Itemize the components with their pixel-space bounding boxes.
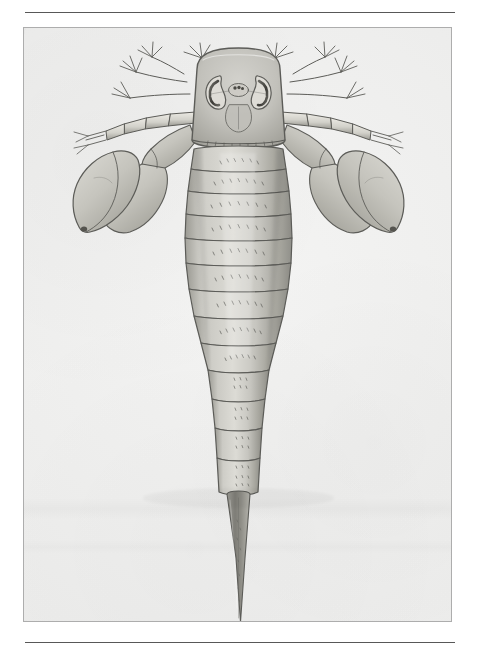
swimming-paddle-left [73, 125, 196, 233]
telson-spike [227, 491, 250, 622]
eurypterid-illustration [24, 28, 452, 622]
bottom-rule [25, 642, 455, 643]
metasoma-segments [208, 370, 269, 495]
top-rule [25, 12, 455, 13]
plate-frame [23, 27, 452, 622]
swimming-paddle-right [281, 125, 404, 233]
carapace [192, 48, 285, 149]
plate-page [0, 0, 480, 655]
